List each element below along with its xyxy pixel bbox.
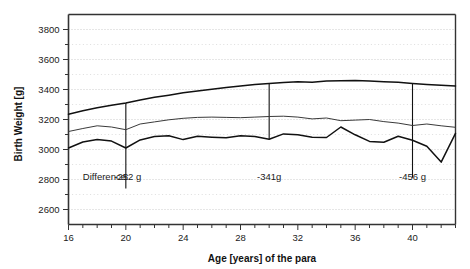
- ytick-label-3400: 3400: [38, 84, 59, 95]
- ytick-label-3800: 3800: [38, 24, 59, 35]
- ytick-label-3200: 3200: [38, 114, 59, 125]
- ytick-label-2600: 2600: [38, 204, 59, 215]
- ytick-label-3600: 3600: [38, 54, 59, 65]
- annotation-3: -456 g: [399, 171, 426, 182]
- birth-weight-vs-maternal-age-line-chart: 16202428323640 2600280030003200340036003…: [0, 0, 470, 269]
- xtick-label-32: 32: [293, 232, 304, 243]
- xtick-label-16: 16: [63, 232, 74, 243]
- xtick-label-28: 28: [235, 232, 246, 243]
- xtick-label-36: 36: [350, 232, 361, 243]
- ytick-label-2800: 2800: [38, 174, 59, 185]
- y-axis-title: Birth Weight [g]: [13, 87, 24, 162]
- chart-figure: 16202428323640 2600280030003200340036003…: [0, 0, 470, 269]
- ytick-label-3000: 3000: [38, 144, 59, 155]
- xtick-label-24: 24: [178, 232, 189, 243]
- xtick-label-20: 20: [121, 232, 132, 243]
- x-axis-title: Age [years] of the para: [208, 253, 317, 264]
- xtick-label-40: 40: [407, 232, 418, 243]
- annotation-1: -252 g: [114, 171, 141, 182]
- annotation-2: -341g: [257, 171, 281, 182]
